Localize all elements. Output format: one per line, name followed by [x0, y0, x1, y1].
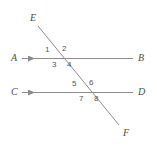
angle-number-8: 8 [94, 95, 98, 103]
angle-number-3: 3 [52, 61, 56, 69]
angle-number-5: 5 [72, 80, 76, 88]
angle-number-6: 6 [89, 79, 93, 87]
geometry-figure: E A B C D F 1 2 3 4 5 6 7 8 [0, 0, 157, 148]
point-label-f: F [123, 128, 129, 138]
angle-number-2: 2 [62, 45, 66, 53]
point-label-d: D [138, 87, 145, 97]
angle-number-1: 1 [45, 46, 49, 54]
figure-canvas [0, 0, 157, 148]
point-label-c: C [11, 87, 18, 97]
point-label-a: A [11, 53, 17, 63]
angle-number-4: 4 [67, 61, 71, 69]
transversal-line-ef [38, 26, 119, 125]
point-label-e: E [30, 13, 36, 23]
angle-number-7: 7 [79, 95, 83, 103]
point-label-b: B [138, 53, 144, 63]
